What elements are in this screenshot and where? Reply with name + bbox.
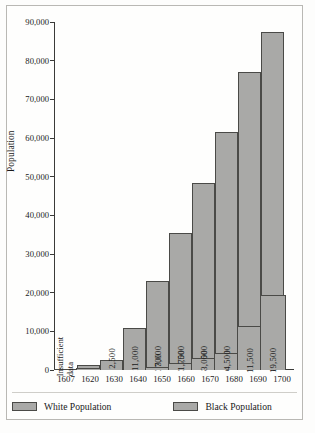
y-axis-title: Population [6,130,16,172]
bar-column-1670[interactable]: 48,500 3,000 [192,22,215,370]
x-axis-tick-1630: 1630 [102,372,126,386]
insufficient-data-note: Insufficient data [56,337,75,376]
y-axis-tick-50000: 50,000 [25,171,54,183]
y-tick-label: 30,000 [25,249,49,259]
legend: White Population Black Population [12,396,297,416]
x-axis-tick-1650: 1650 [150,372,174,386]
x-axis-tick-1670: 1670 [198,372,222,386]
legend-item-white-population[interactable]: White Population [12,401,111,412]
y-tick-label: 10,000 [25,326,49,336]
black-value-label-1650: 700 [153,354,162,368]
legend-label-black: Black Population [205,401,271,412]
y-axis-tick-70000: 70,000 [25,93,54,105]
bar-column-1690[interactable]: 77,000 11,500 [238,22,261,370]
white-bar-1640[interactable]: 11,000 [123,328,146,371]
legend-swatch-icon-white [12,402,37,411]
x-axis-tick-1620: 1620 [78,372,102,386]
insufficient-data-line-1: Insufficient [56,337,66,376]
y-axis-tick-10000: 10,000 [25,325,54,337]
white-bar-1680[interactable]: 61,500 [215,132,238,370]
y-tick-label: 80,000 [25,56,49,66]
black-value-label-1700: 19,500 [268,348,277,373]
bar-column-1630[interactable]: 2,500 [100,22,123,370]
black-bar-1690[interactable]: 11,500 [237,326,262,371]
y-tick-label: 0 [45,365,49,375]
black-bar-1700[interactable]: 19,500 [260,295,285,370]
black-value-label-1680: 4,500 [222,350,231,371]
white-value-label-1630: 2,500 [107,348,116,369]
y-tick-label: 60,000 [25,133,49,143]
black-bar-1650[interactable]: 700 [145,367,170,370]
y-axis-tick-20000: 20,000 [25,287,54,299]
x-axis-tick-1640: 1640 [126,372,150,386]
y-tick-label: 20,000 [25,288,49,298]
x-axis-tick-1607: 1607 [54,372,78,386]
y-tick-label: 90,000 [25,17,49,27]
black-value-label-1690: 11,500 [245,348,254,373]
x-axis-tick-1660: 1660 [174,372,198,386]
y-axis-tick-80000: 80,000 [25,55,54,67]
black-value-label-1670: 3,000 [199,350,208,371]
x-axis-tick-1690: 1690 [246,372,270,386]
white-value-label-1640: 11,000 [130,346,139,371]
y-axis-tick-60000: 60,000 [25,132,54,144]
bars-group: Insufficient data 2,500 11,000 [54,22,294,370]
black-bar-1620[interactable] [76,368,101,370]
plot-area: Insufficient data 2,500 11,000 [54,22,294,370]
y-axis-tick-0: 0 [45,364,54,376]
black-value-label-1660: 1,700 [176,350,185,371]
population-bar-chart-figure: Population 0 10,000 20,000 30,000 40,000… [0,0,315,433]
bar-column-1660[interactable]: 35,500 1,700 [169,22,192,370]
x-axis-tick-1700: 1700 [270,372,294,386]
insufficient-data-line-2: data [66,337,76,376]
black-bar-1670[interactable]: 3,000 [191,358,216,370]
y-tick-label: 40,000 [25,210,49,220]
bar-column-1650[interactable]: 23,000 700 [146,22,169,370]
black-bar-1660[interactable]: 1,700 [168,363,193,370]
legend-divider [12,392,297,393]
y-tick-label: 50,000 [25,172,49,182]
x-axis-tick-1680: 1680 [222,372,246,386]
y-axis-tick-90000: 90,000 [25,16,54,28]
bar-column-1607[interactable]: Insufficient data [54,22,77,370]
y-axis: Population 0 10,000 20,000 30,000 40,000… [0,22,54,370]
y-axis-tick-40000: 40,000 [25,209,54,221]
legend-swatch-icon-black [173,402,198,411]
y-axis-tick-30000: 30,000 [25,248,54,260]
bar-column-1640[interactable]: 11,000 [123,22,146,370]
legend-item-black-population[interactable]: Black Population [173,401,271,412]
y-tick-label: 70,000 [25,94,49,104]
black-bar-1680[interactable]: 4,500 [214,353,239,370]
x-axis: 1607 1620 1630 1640 1650 1660 1670 1680 … [54,372,294,386]
white-bar-1630[interactable]: 2,500 [100,360,123,370]
white-bar-1670[interactable]: 48,500 [192,183,215,371]
bar-column-1620[interactable] [77,22,100,370]
legend-label-white: White Population [44,401,111,412]
bar-column-1700[interactable]: 87,500 19,500 [261,22,284,370]
bar-column-1680[interactable]: 61,500 4,500 [215,22,238,370]
